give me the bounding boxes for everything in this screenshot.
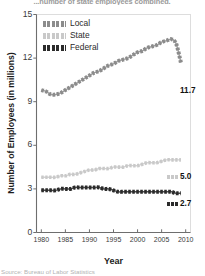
y-tick-15: 15 xyxy=(16,9,32,19)
x-tick-1985: 1985 xyxy=(52,236,78,243)
legend-label-local: Local xyxy=(70,18,90,29)
x-tick-1990: 1990 xyxy=(76,236,102,243)
x-tick-1980: 1980 xyxy=(28,236,54,243)
legend-label-state: State xyxy=(70,30,90,41)
x-tick-1995: 1995 xyxy=(101,236,127,243)
y-tick-6: 6 xyxy=(16,139,32,149)
legend-label-federal: Federal xyxy=(70,42,98,53)
y-tick-12: 12 xyxy=(16,52,32,62)
x-tick-2000: 2000 xyxy=(125,236,151,243)
legend-swatch-state xyxy=(43,33,66,39)
end-label-state: 5.0 xyxy=(180,172,191,181)
end-label-federal: 2.7 xyxy=(180,199,191,208)
legend-item-state: State xyxy=(43,30,115,41)
chart-figure: ...number of state employees combined. N… xyxy=(0,0,205,276)
y-tick-9: 9 xyxy=(16,96,32,106)
chart-legend: Local State Federal xyxy=(43,18,115,54)
x-tick-2005: 2005 xyxy=(149,236,175,243)
source-note: Source: Bureau of Labor Statistics xyxy=(1,268,151,275)
series-group xyxy=(41,39,181,193)
end-dash-state xyxy=(167,175,179,178)
y-tick-3: 3 xyxy=(16,183,32,193)
end-dash-federal xyxy=(167,202,179,206)
x-tick-2010: 2010 xyxy=(173,236,199,243)
legend-swatch-federal xyxy=(43,45,66,51)
legend-item-federal: Federal xyxy=(43,42,115,53)
end-label-local: 11.7 xyxy=(180,86,195,95)
legend-swatch-local xyxy=(43,21,66,27)
legend-item-local: Local xyxy=(43,18,115,29)
